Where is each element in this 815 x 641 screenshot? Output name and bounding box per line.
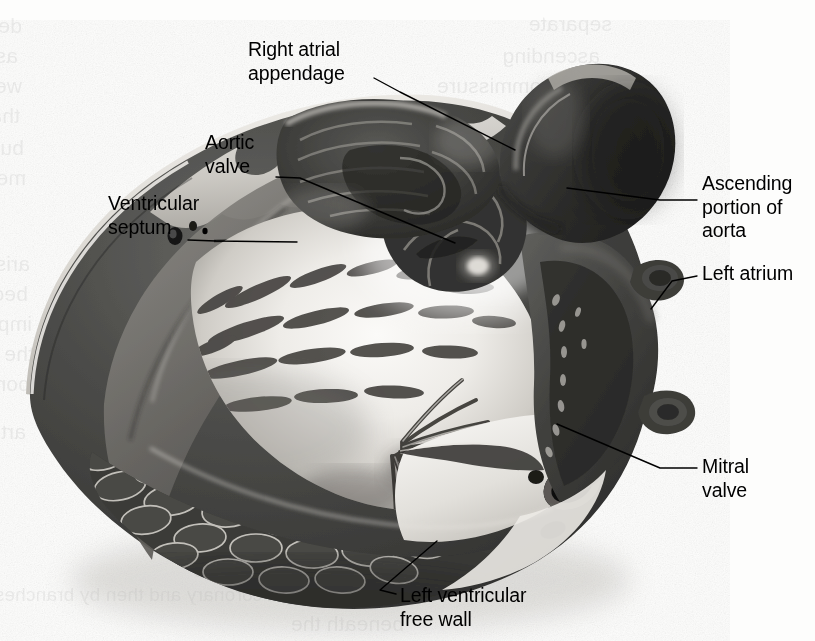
- label-mitral-valve: Mitral valve: [702, 455, 749, 502]
- heart-anatomy-figure: descends across the septal leafletas the…: [0, 0, 815, 641]
- label-ascending-portion-of-aorta: Ascending portion of aorta: [702, 172, 792, 243]
- leader-line-aortic-valve: [276, 177, 455, 243]
- label-right-atrial-appendage: Right atrial appendage: [248, 38, 345, 85]
- label-aortic-valve: Aortic valve: [205, 131, 254, 178]
- leader-line-right-atrial-appendage: [374, 78, 515, 150]
- label-ventricular-septum: Ventricular septum: [108, 192, 199, 239]
- leader-line-ventricular-septum: [188, 240, 297, 242]
- label-left-atrium: Left atrium: [702, 262, 793, 286]
- leader-line-ascending-portion-of-aorta: [567, 188, 697, 200]
- label-leader-lines: [0, 0, 815, 641]
- leader-line-mitral-valve: [557, 424, 697, 468]
- leader-line-left-atrium: [651, 276, 697, 309]
- label-left-ventricular-free-wall: Left ventricular free wall: [400, 584, 526, 631]
